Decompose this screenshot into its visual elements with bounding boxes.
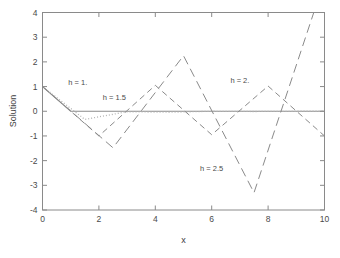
chart-figure: 0246810 -4-3-2-101234 h = 1.h = 1.5h = 2… [0, 0, 340, 258]
curve-label-2: h = 2. [230, 76, 249, 85]
line-chart: 0246810 -4-3-2-101234 h = 1.h = 1.5h = 2… [0, 0, 340, 258]
x-tick-label-2: 4 [153, 214, 158, 224]
y-tick-label-4: 0 [33, 106, 38, 116]
x-axis-title: x [181, 235, 186, 245]
y-tick-label-2: -2 [30, 156, 38, 166]
y-tick-label-3: -1 [30, 131, 38, 141]
y-axis-title: Solution [8, 95, 18, 128]
y-tick-label-7: 3 [33, 32, 38, 42]
y-tick-label-5: 1 [33, 82, 38, 92]
y-tick-label-1: -3 [30, 180, 38, 190]
x-tick-label-3: 6 [209, 214, 214, 224]
curve-label-0: h = 1. [68, 78, 87, 87]
x-tick-label-4: 8 [266, 214, 271, 224]
y-tick-label-0: -4 [30, 205, 38, 215]
x-tick-label-0: 0 [40, 214, 45, 224]
curve-label-1: h = 1.5 [103, 93, 126, 102]
y-tick-label-6: 2 [33, 57, 38, 67]
x-tick-label-1: 2 [97, 214, 102, 224]
x-tick-label-5: 10 [320, 214, 330, 224]
y-tick-label-8: 4 [33, 8, 38, 18]
curve-label-3: h = 2.5 [200, 164, 223, 173]
chart-background [0, 0, 340, 258]
